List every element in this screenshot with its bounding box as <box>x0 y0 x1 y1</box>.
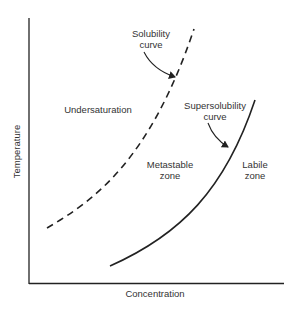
solubility-arrow <box>144 52 175 77</box>
metastable-zone-label: Metastable zone <box>140 159 200 181</box>
undersaturation-label: Undersaturation <box>58 104 138 115</box>
supersolubility-curve <box>110 100 255 266</box>
solubility-label: Solubility curve <box>118 28 184 50</box>
supersolubility-label: Supersolubility curve <box>170 100 260 122</box>
supersolubility-arrow <box>208 123 228 147</box>
solubility-curve <box>47 29 194 228</box>
x-axis-label: Concentration <box>110 288 200 299</box>
labile-zone-label: Labile zone <box>233 159 277 181</box>
y-axis-label: Temperature <box>11 122 22 182</box>
